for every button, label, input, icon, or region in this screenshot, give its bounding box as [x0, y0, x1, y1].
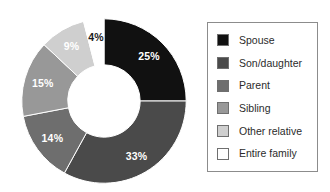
legend-item[interactable]: Sibling	[208, 97, 317, 119]
slice-value-label: 14%	[42, 132, 64, 144]
legend-swatch-icon	[217, 125, 229, 137]
legend-item-label: Entire family	[239, 148, 297, 159]
legend-item[interactable]: Son/daughter	[208, 52, 317, 74]
legend-swatch-icon	[217, 34, 229, 46]
legend-item[interactable]: Spouse	[208, 29, 317, 51]
slice-value-label: 4%	[88, 31, 104, 43]
slice-value-label: 33%	[126, 150, 148, 162]
legend-swatch-icon	[217, 148, 229, 160]
legend-item[interactable]: Other relative	[208, 120, 317, 142]
slice-value-label: 15%	[32, 77, 54, 89]
legend-item[interactable]: Parent	[208, 75, 317, 97]
legend-item-label: Son/daughter	[239, 58, 302, 69]
donut-plot-area: 25%33%14%15%9%4%	[21, 18, 187, 184]
legend-item-label: Sibling	[239, 103, 271, 114]
legend-item-label: Spouse	[239, 35, 275, 46]
donut-slice-group	[22, 19, 186, 183]
legend-swatch-icon	[217, 102, 229, 114]
legend-item[interactable]: Entire family	[208, 143, 317, 165]
slice-value-label: 25%	[138, 50, 160, 62]
legend-swatch-icon	[217, 80, 229, 92]
donut-slice[interactable]	[64, 101, 186, 183]
legend-swatch-icon	[217, 57, 229, 69]
donut-svg: 25%33%14%15%9%4%	[21, 18, 187, 184]
slice-value-label: 9%	[64, 40, 80, 52]
chart-legend: SpouseSon/daughterParentSiblingOther rel…	[207, 22, 318, 172]
legend-item-label: Parent	[239, 80, 270, 91]
legend-item-label: Other relative	[239, 126, 302, 137]
donut-chart-figure: 25%33%14%15%9%4% SpouseSon/daughterParen…	[0, 0, 330, 192]
